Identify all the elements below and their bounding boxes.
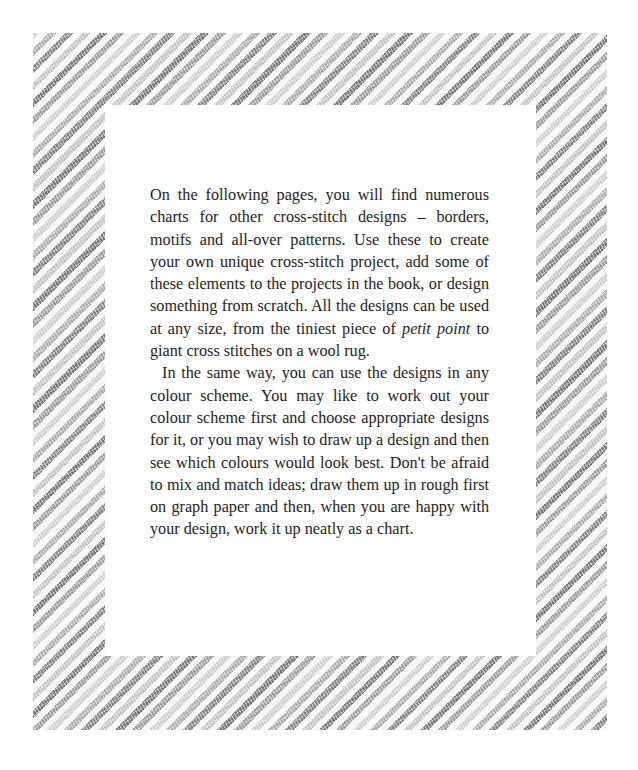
paragraph-2: In the same way, you can use the designs…: [150, 362, 489, 540]
paragraph-1: On the following pages, you will find nu…: [150, 184, 489, 362]
body-text: On the following pages, you will find nu…: [150, 184, 489, 541]
book-page: On the following pages, you will find nu…: [0, 0, 638, 770]
paragraph-1-italic-term: petit point: [402, 320, 470, 338]
paragraph-1-text-a: On the following pages, you will find nu…: [150, 186, 489, 338]
